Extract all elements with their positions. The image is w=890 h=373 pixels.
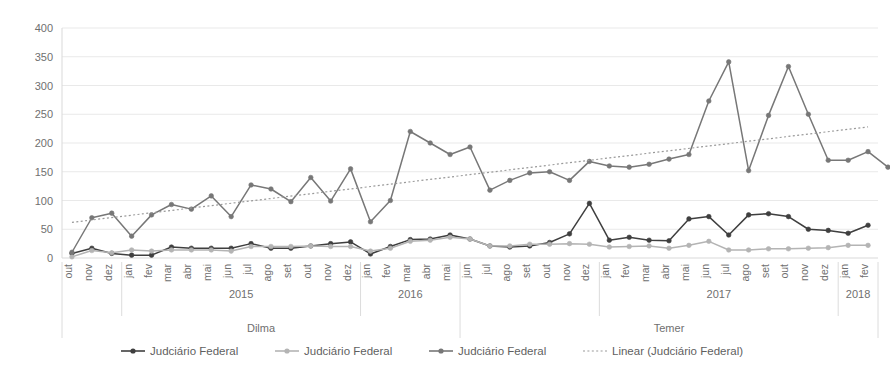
data-point-marker bbox=[587, 159, 592, 164]
data-point-marker bbox=[786, 214, 791, 219]
x-tick-label: jan bbox=[360, 264, 372, 279]
legend-item-label: Judciário Federal bbox=[304, 345, 392, 357]
x-tick-label: ago bbox=[261, 264, 273, 282]
data-point-marker bbox=[627, 244, 632, 249]
x-tick-label: jul bbox=[480, 264, 492, 276]
x-tick-label: jan bbox=[599, 264, 611, 279]
legend-item[interactable]: Judciário Federal bbox=[275, 345, 392, 357]
x-tick-label: ago bbox=[739, 264, 751, 282]
data-point-marker bbox=[746, 168, 751, 173]
x-tick-label: dez bbox=[102, 264, 114, 281]
x-tick-label: jul bbox=[241, 264, 253, 276]
x-tick-label: fev bbox=[619, 263, 631, 278]
data-point-marker bbox=[269, 187, 274, 192]
data-point-marker bbox=[527, 242, 532, 247]
data-point-marker bbox=[667, 246, 672, 251]
x-tick-label: jun bbox=[460, 264, 472, 279]
data-point-marker bbox=[229, 249, 234, 254]
data-point-marker bbox=[189, 248, 194, 253]
data-point-marker bbox=[488, 244, 493, 249]
data-point-marker bbox=[866, 223, 871, 228]
x-tick-label: dez bbox=[579, 264, 591, 281]
data-point-marker bbox=[567, 232, 572, 237]
x-tick-label: mai bbox=[679, 264, 691, 281]
x-tick-label: nov bbox=[82, 263, 94, 281]
data-point-marker bbox=[567, 241, 572, 246]
year-group-label: 2018 bbox=[846, 288, 870, 300]
x-tick-label: abr bbox=[659, 264, 671, 280]
data-point-marker bbox=[667, 157, 672, 162]
legend-item[interactable]: Linear (Judciário Federal) bbox=[583, 345, 743, 357]
y-tick-label: 350 bbox=[35, 51, 53, 63]
data-point-marker bbox=[109, 251, 114, 256]
x-tick-label: mar bbox=[161, 264, 173, 283]
x-tick-label: set bbox=[281, 264, 293, 278]
data-point-marker bbox=[627, 235, 632, 240]
data-point-marker bbox=[468, 145, 473, 150]
data-point-marker bbox=[428, 238, 433, 243]
data-point-marker bbox=[826, 245, 831, 250]
legend-item-label: Judciário Federal bbox=[150, 345, 238, 357]
data-point-marker bbox=[746, 248, 751, 253]
x-tick-label: fev bbox=[380, 263, 392, 278]
data-point-marker bbox=[229, 214, 234, 219]
data-point-marker bbox=[448, 152, 453, 157]
data-point-marker bbox=[388, 246, 393, 251]
data-point-marker bbox=[627, 165, 632, 170]
data-point-marker bbox=[687, 152, 692, 157]
x-tick-label: out bbox=[301, 264, 313, 279]
data-point-marker bbox=[169, 248, 174, 253]
x-tick-label: mar bbox=[400, 264, 412, 283]
data-point-marker bbox=[846, 243, 851, 248]
chart-svg: 050100150200250300350400 outnovdezjanfev… bbox=[0, 0, 890, 373]
data-point-marker bbox=[866, 149, 871, 154]
data-point-marker bbox=[209, 248, 214, 253]
x-tick-label: set bbox=[759, 264, 771, 278]
legend-item-label: Judciário Federal bbox=[458, 345, 546, 357]
data-point-marker bbox=[129, 248, 134, 253]
x-tick-label: mai bbox=[201, 264, 213, 281]
legend-item[interactable]: Judciário Federal bbox=[429, 345, 546, 357]
data-point-marker bbox=[249, 183, 254, 188]
data-point-marker bbox=[269, 244, 274, 249]
x-tick-label: abr bbox=[420, 264, 432, 280]
legend-item-label: Linear (Judciário Federal) bbox=[612, 345, 743, 357]
data-point-marker bbox=[587, 242, 592, 247]
data-point-marker bbox=[70, 255, 75, 260]
x-tick-label: jan bbox=[122, 264, 134, 279]
data-point-marker bbox=[249, 244, 254, 249]
data-point-marker bbox=[786, 64, 791, 69]
data-point-marker bbox=[687, 243, 692, 248]
x-tick-label: fev bbox=[142, 263, 154, 278]
data-point-marker bbox=[448, 235, 453, 240]
data-point-marker bbox=[408, 129, 413, 134]
data-point-marker bbox=[508, 178, 513, 183]
data-point-marker bbox=[109, 211, 114, 216]
x-tick-label: abr bbox=[181, 264, 193, 280]
legend-marker-icon bbox=[284, 348, 289, 353]
data-point-marker bbox=[328, 244, 333, 249]
legend-item[interactable]: Judciário Federal bbox=[121, 345, 238, 357]
x-tick-label: mar bbox=[639, 264, 651, 283]
data-point-marker bbox=[129, 234, 134, 239]
data-point-marker bbox=[308, 244, 313, 249]
x-tick-label: jan bbox=[838, 264, 850, 279]
data-point-marker bbox=[766, 113, 771, 118]
data-point-marker bbox=[368, 249, 373, 254]
data-point-marker bbox=[289, 244, 294, 249]
data-point-marker bbox=[647, 238, 652, 243]
data-point-marker bbox=[806, 246, 811, 251]
legend-marker-icon bbox=[130, 348, 135, 353]
y-tick-label: 300 bbox=[35, 80, 53, 92]
data-point-marker bbox=[508, 244, 513, 249]
x-tick-label: out bbox=[778, 264, 790, 279]
president-group-label: Dilma bbox=[247, 322, 276, 334]
y-tick-label: 250 bbox=[35, 108, 53, 120]
chart-legend: Judciário FederalJudciário FederalJudciá… bbox=[121, 345, 743, 357]
x-axis-ticks: outnovdezjanfevmarabrmaijunjulagosetoutn… bbox=[62, 263, 870, 282]
data-point-marker bbox=[547, 242, 552, 247]
data-point-marker bbox=[687, 217, 692, 222]
data-point-marker bbox=[149, 249, 154, 254]
data-point-marker bbox=[328, 199, 333, 204]
data-point-marker bbox=[826, 158, 831, 163]
